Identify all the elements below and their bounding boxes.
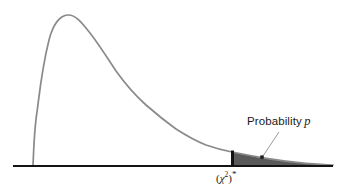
probability-leader-line (263, 132, 279, 156)
probability-label-prefix: Probability (247, 115, 302, 127)
critical-value-label: (χ2)* (216, 172, 236, 184)
critical-label-star: * (232, 169, 237, 179)
density-curve (33, 15, 333, 166)
probability-leader-dot (260, 155, 263, 158)
chi-square-distribution-plot (0, 0, 340, 195)
chi-square-figure: Probability p (χ2)* (0, 0, 340, 195)
probability-label-symbol: p (304, 114, 310, 128)
probability-label: Probability p (247, 114, 311, 129)
